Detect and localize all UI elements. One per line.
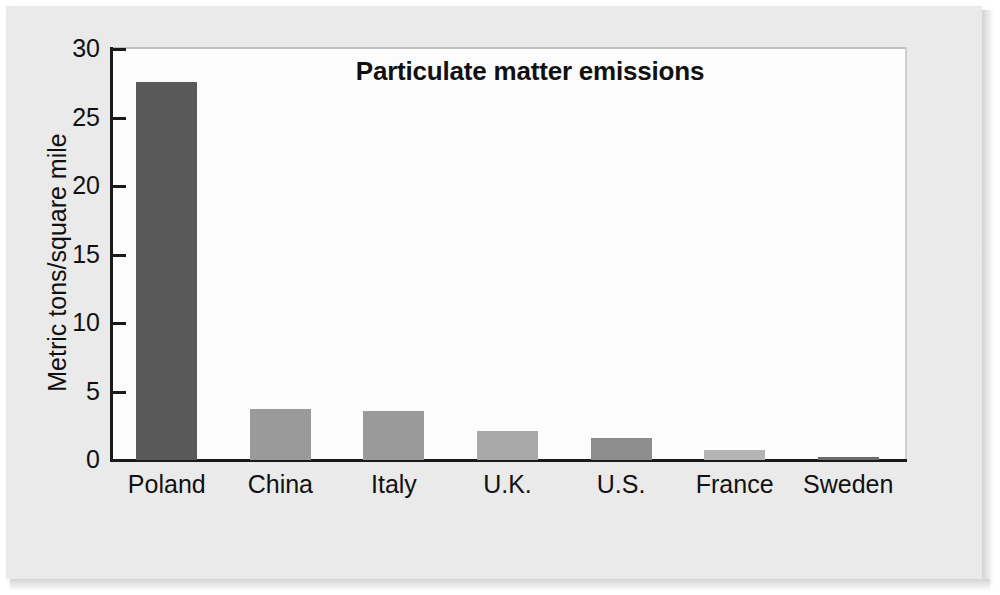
bar-uk [477,431,538,460]
bar-poland [136,82,197,460]
bar-series [113,49,905,460]
bar-china [250,409,311,460]
bar-france [704,450,765,460]
bar-italy [363,411,424,460]
bar-chart: 051015202530 Metric tons/square mile Par… [0,0,1000,595]
x-label-sweden: Sweden [773,470,923,499]
scanned-page: 051015202530 Metric tons/square mile Par… [0,0,1000,595]
plot-right-border [905,47,907,462]
bar-us [591,438,652,460]
y-axis-title: Metric tons/square mile [43,53,72,473]
bar-sweden [818,457,879,460]
